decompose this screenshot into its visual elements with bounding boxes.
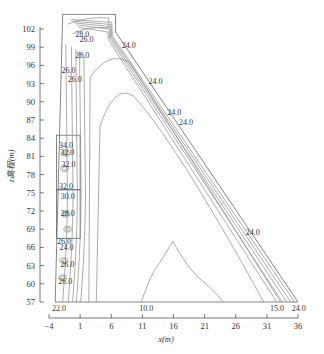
y-tick-label: 99 bbox=[27, 42, 36, 52]
y-tick-label: 96 bbox=[27, 60, 36, 70]
contour-label: 32.0 bbox=[59, 182, 73, 191]
x-tick-label: 21 bbox=[200, 321, 209, 331]
y-tick-label: 102 bbox=[22, 24, 35, 34]
contour-label: 24.0 bbox=[60, 243, 74, 252]
y-tick-label: 87 bbox=[27, 115, 36, 125]
contour-label: 30.0 bbox=[61, 192, 75, 201]
contour-label: 24.0 bbox=[149, 77, 163, 86]
y-tick-label: 66 bbox=[27, 242, 36, 252]
x-axis-title: x(m) bbox=[157, 334, 174, 344]
contour-label: 24.0 bbox=[292, 304, 306, 313]
contour-label: 10.0 bbox=[139, 304, 153, 313]
x-tick-label: 6 bbox=[109, 321, 113, 331]
y-axis-title: z高程(m) bbox=[6, 149, 16, 183]
contour-label: 15.0 bbox=[270, 304, 284, 313]
y-tick-label: 81 bbox=[27, 151, 36, 161]
contour-line bbox=[76, 25, 282, 302]
y-tick-label: 84 bbox=[27, 133, 36, 143]
contour-line bbox=[71, 20, 295, 302]
contour-label: 24.0 bbox=[246, 228, 260, 237]
contour-line bbox=[78, 27, 276, 302]
contour-label: 24.0 bbox=[167, 108, 181, 117]
contour-label: 32.0 bbox=[60, 148, 74, 157]
contour-label: 28.0 bbox=[75, 51, 89, 60]
y-tick-label: 93 bbox=[27, 79, 36, 89]
contour-label: 24.0 bbox=[179, 118, 193, 127]
y-tick-label: 60 bbox=[27, 279, 36, 289]
contour-label: 22.0 bbox=[52, 304, 66, 313]
contour-lines bbox=[59, 18, 295, 302]
contour-labels: 28.026.024.028.026.026.024.024.024.034.0… bbox=[52, 30, 306, 313]
contour-line bbox=[81, 54, 86, 302]
x-tick-label: 36 bbox=[294, 321, 303, 331]
contour-label: 26.0 bbox=[68, 75, 82, 84]
y-tick-label: 57 bbox=[27, 297, 36, 307]
x-tick-label: 31 bbox=[263, 321, 272, 331]
y-tick-label: 78 bbox=[27, 170, 36, 180]
contour-chart: 576063666972757881848790939699102−416111… bbox=[0, 0, 324, 354]
contour-loop bbox=[66, 228, 70, 231]
contour-line bbox=[141, 241, 223, 302]
contour-label: 26.0 bbox=[80, 35, 94, 44]
x-tick-label: 16 bbox=[169, 321, 178, 331]
x-tick-label: 11 bbox=[138, 321, 146, 331]
y-tick-label: 90 bbox=[27, 97, 36, 107]
contour-loop bbox=[64, 226, 72, 232]
x-tick-label: −4 bbox=[44, 321, 54, 331]
y-tick-label: 63 bbox=[27, 261, 36, 271]
contour-label: 26.0 bbox=[58, 277, 72, 286]
contour-label: 26.0 bbox=[60, 260, 74, 269]
x-tick-label: 26 bbox=[232, 321, 241, 331]
y-tick-label: 75 bbox=[27, 188, 36, 198]
contour-label: 28.0 bbox=[61, 209, 75, 218]
contour-label: 24.0 bbox=[122, 41, 136, 50]
x-tick-label: 1 bbox=[78, 321, 82, 331]
y-tick-label: 72 bbox=[27, 206, 36, 216]
contour-label: 32.0 bbox=[61, 160, 75, 169]
y-tick-label: 69 bbox=[27, 224, 36, 234]
